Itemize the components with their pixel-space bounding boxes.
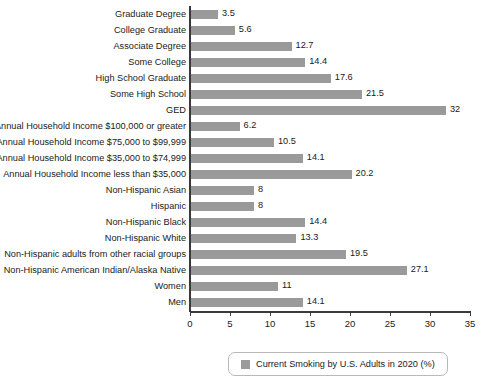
bar-row: Non-Hispanic Black14.4 — [0, 214, 483, 230]
bar-track: 8 — [190, 182, 473, 198]
x-axis-tick — [350, 311, 351, 316]
bar-chart: Graduate Degree3.5College Graduate5.6Ass… — [0, 0, 483, 384]
x-axis-tick-label: 35 — [465, 318, 476, 330]
bar — [190, 234, 296, 243]
category-label: Non-Hispanic White — [0, 233, 190, 243]
bar — [190, 138, 274, 147]
bar-track: 14.4 — [190, 214, 473, 230]
bar-value-label: 13.3 — [296, 231, 318, 244]
x-axis-tick — [190, 311, 191, 316]
bar — [190, 90, 362, 99]
bar-row: College Graduate5.6 — [0, 22, 483, 38]
chart-legend: Current Smoking by U.S. Adults in 2020 (… — [228, 352, 448, 376]
bar — [190, 106, 446, 115]
category-label: Annual Household Income $35,000 to $74,9… — [0, 153, 190, 163]
bar — [190, 74, 331, 83]
bar-value-label: 14.1 — [303, 295, 325, 308]
bar-value-label: 5.6 — [235, 23, 252, 36]
bar-row: Women11 — [0, 278, 483, 294]
category-label: Men — [0, 297, 190, 307]
bar — [190, 122, 240, 131]
bar — [190, 202, 254, 211]
bar-value-label: 17.6 — [331, 71, 353, 84]
bar-track: 14.1 — [190, 294, 473, 310]
x-axis-tick-label: 30 — [425, 318, 436, 330]
bar-value-label: 3.5 — [218, 7, 235, 20]
bar-track: 12.7 — [190, 38, 473, 54]
x-axis-tick-label: 10 — [265, 318, 276, 330]
bar-track: 5.6 — [190, 22, 473, 38]
x-axis-tick-label: 15 — [305, 318, 316, 330]
bar-track: 13.3 — [190, 230, 473, 246]
x-axis-tick-label: 25 — [385, 318, 396, 330]
bar-value-label: 14.1 — [303, 151, 325, 164]
x-axis-tick — [470, 311, 471, 316]
bar-row: Annual Household Income less than $35,00… — [0, 166, 483, 182]
bar-row: Non-Hispanic White13.3 — [0, 230, 483, 246]
category-label: Graduate Degree — [0, 9, 190, 19]
x-axis: 05101520253035 — [190, 311, 471, 335]
category-label: Non-Hispanic Black — [0, 217, 190, 227]
bar-track: 11 — [190, 278, 473, 294]
category-label: Some High School — [0, 89, 190, 99]
bar-value-label: 12.7 — [292, 39, 314, 52]
legend-swatch-icon — [241, 360, 250, 369]
bar-track: 14.1 — [190, 150, 473, 166]
category-label: Associate Degree — [0, 41, 190, 51]
x-axis-tick-label: 0 — [187, 318, 192, 330]
bar-row: GED32 — [0, 102, 483, 118]
bar — [190, 250, 346, 259]
bar-row: Hispanic8 — [0, 198, 483, 214]
bar — [190, 282, 278, 291]
bar-row: Non-Hispanic adults from other racial gr… — [0, 246, 483, 262]
bar-row: Non-Hispanic Asian8 — [0, 182, 483, 198]
category-label: Non-Hispanic adults from other racial gr… — [0, 249, 190, 259]
bar-track: 27.1 — [190, 262, 473, 278]
bar-value-label: 8 — [254, 199, 263, 212]
bar-value-label: 27.1 — [407, 263, 429, 276]
legend-label: Current Smoking by U.S. Adults in 2020 (… — [256, 358, 435, 370]
bar-value-label: 19.5 — [346, 247, 368, 260]
bar-value-label: 6.2 — [240, 119, 257, 132]
bar-value-label: 32 — [446, 103, 460, 116]
bar-track: 19.5 — [190, 246, 473, 262]
category-label: Annual Household Income less than $35,00… — [0, 169, 190, 179]
bar — [190, 218, 305, 227]
bar-value-label: 21.5 — [362, 87, 384, 100]
category-label: College Graduate — [0, 25, 190, 35]
bar-track: 32 — [190, 102, 473, 118]
bar-row: Men14.1 — [0, 294, 483, 310]
bar — [190, 186, 254, 195]
bar-row: High School Graduate17.6 — [0, 70, 483, 86]
bar-row: Annual Household Income $100,000 or grea… — [0, 118, 483, 134]
bar-track: 8 — [190, 198, 473, 214]
category-label: Non-Hispanic Asian — [0, 185, 190, 195]
bar-value-label: 11 — [278, 279, 292, 292]
category-label: GED — [0, 105, 190, 115]
y-axis-line — [189, 6, 191, 312]
bar — [190, 58, 305, 67]
bar-row: Non-Hispanic American Indian/Alaska Nati… — [0, 262, 483, 278]
x-axis-line — [190, 311, 471, 313]
x-axis-tick — [230, 311, 231, 316]
bar — [190, 26, 235, 35]
bar — [190, 298, 303, 307]
bar — [190, 170, 352, 179]
x-axis-tick — [310, 311, 311, 316]
category-label: Women — [0, 281, 190, 291]
bar-row: Some College14.4 — [0, 54, 483, 70]
x-axis-tick-label: 20 — [345, 318, 356, 330]
bar-track: 10.5 — [190, 134, 473, 150]
category-label: Annual Household Income $75,000 to $99,9… — [0, 137, 190, 147]
bar-row: Annual Household Income $35,000 to $74,9… — [0, 150, 483, 166]
bar-track: 14.4 — [190, 54, 473, 70]
bar-row: Associate Degree12.7 — [0, 38, 483, 54]
bar-value-label: 20.2 — [352, 167, 374, 180]
bar — [190, 266, 407, 275]
bar — [190, 10, 218, 19]
bar-value-label: 14.4 — [305, 55, 327, 68]
category-label: Non-Hispanic American Indian/Alaska Nati… — [0, 265, 190, 275]
bar-row: Graduate Degree3.5 — [0, 6, 483, 22]
x-axis-tick — [430, 311, 431, 316]
bar — [190, 154, 303, 163]
